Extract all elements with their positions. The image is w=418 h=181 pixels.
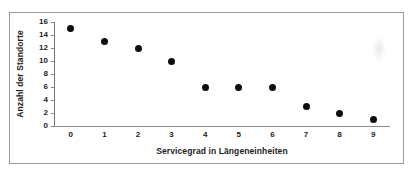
y-axis-title-text: Anzahl der Standorte [15, 30, 25, 117]
y-tick-label: 6 [44, 83, 48, 91]
data-point [135, 45, 142, 52]
y-tick-label: 10 [39, 57, 48, 65]
x-axis-line [54, 126, 390, 127]
data-point [202, 84, 209, 91]
x-tick-label: 1 [102, 131, 106, 139]
x-tick-label: 8 [337, 131, 341, 139]
y-tick-label: 12 [39, 44, 48, 52]
y-tick-label: 2 [44, 109, 48, 117]
x-axis-title: Servicegrad in Längeneinheiten [54, 146, 390, 156]
y-tick-label: 8 [44, 70, 48, 78]
data-point [269, 84, 276, 91]
x-tick-label: 6 [270, 131, 274, 139]
data-point [235, 84, 242, 91]
data-point [303, 103, 310, 110]
data-point [67, 25, 74, 32]
data-point [336, 110, 343, 117]
y-tick-label: 0 [44, 122, 48, 130]
x-tick-label: 2 [136, 131, 140, 139]
data-point [370, 116, 377, 123]
data-point [101, 38, 108, 45]
x-tick-label: 0 [69, 131, 73, 139]
y-tick-label: 16 [39, 18, 48, 26]
y-tick-label: 4 [44, 96, 48, 104]
x-tick-label: 5 [237, 131, 241, 139]
x-tick-label: 7 [304, 131, 308, 139]
x-tick-label: 4 [203, 131, 207, 139]
x-tick-label: 3 [169, 131, 173, 139]
data-point [168, 58, 175, 65]
x-tick-label: 9 [371, 131, 375, 139]
y-axis-title: Anzahl der Standorte [14, 22, 26, 126]
y-tick-mark [51, 126, 54, 127]
y-tick-label: 14 [39, 31, 48, 39]
plot-area [54, 22, 390, 126]
